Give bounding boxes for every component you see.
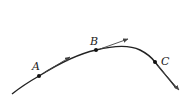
label-b: B <box>89 35 98 48</box>
point-a <box>37 74 41 78</box>
point-b <box>94 48 98 52</box>
label-a: A <box>31 60 40 73</box>
tangent-arrow-c <box>158 66 179 90</box>
label-c: C <box>161 55 170 68</box>
curve-diagram: A B C <box>0 0 189 110</box>
tangent-arrow-b <box>100 39 128 49</box>
point-c <box>153 60 157 64</box>
tangent-arrow-a <box>44 57 70 73</box>
